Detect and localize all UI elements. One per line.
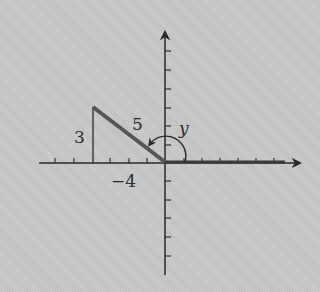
- terminal-side: [93, 107, 165, 162]
- coordinate-diagram: 5 3 −4 y: [0, 0, 320, 292]
- opposite-label: 3: [74, 127, 85, 147]
- angle-label: y: [178, 118, 189, 138]
- hypotenuse-label: 5: [132, 114, 143, 134]
- adjacent-label: −4: [111, 171, 136, 191]
- y-axis-ticks: [165, 51, 171, 256]
- angle-arc: [150, 136, 186, 162]
